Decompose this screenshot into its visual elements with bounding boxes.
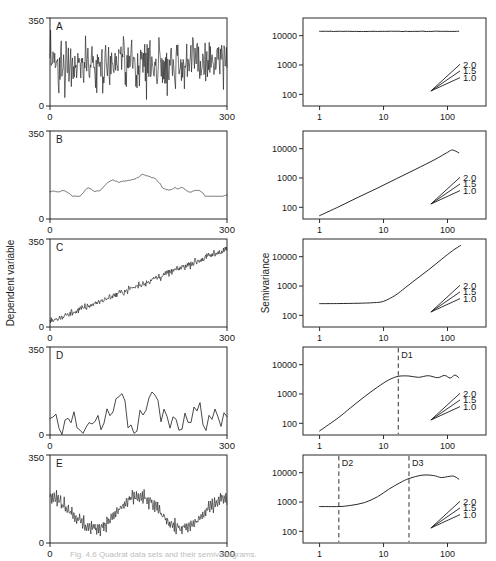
panel-A-vario-ylabel-100: 100 <box>282 90 297 100</box>
panel-D-vario-frame <box>303 347 486 435</box>
panel-C-vario-xlabel-10: 10 <box>379 333 389 343</box>
panel-B-label: B <box>56 134 63 145</box>
panel-A-xlabel-min: 0 <box>47 111 52 122</box>
panel-D-marker-label-D1: D1 <box>401 350 413 360</box>
panel-E-marker-label-D2: D2 <box>342 458 354 468</box>
panel-D-ylabel-min: 0 <box>39 429 44 440</box>
panel-B-vario-xlabel-10: 10 <box>379 225 389 235</box>
panel-D-vario-xlabel-100: 100 <box>440 441 455 451</box>
panel-D-vario-xlabel-1: 1 <box>317 441 322 451</box>
panel-E-label: E <box>56 458 63 469</box>
panel-A-slope-line-1.0 <box>431 78 460 91</box>
panel-B-data-line <box>50 174 227 196</box>
panel-D-xlabel-min: 0 <box>47 440 52 451</box>
panel-C-slope-line-1.5 <box>431 292 460 312</box>
panel-E-slope-line-2.0 <box>431 501 460 528</box>
panel-B-ylabel-max: 350 <box>28 128 44 139</box>
panel-B-vario-frame <box>303 131 486 219</box>
panel-C-series-plot: C35000300 <box>28 236 235 343</box>
panel-E-vario-frame <box>303 455 486 543</box>
left-axis-title: Dependent variable <box>5 239 16 326</box>
panel-D-slope-line-2.0 <box>431 393 460 420</box>
panel-A-semivariogram: 1001000100001101001.01.52.0 <box>272 18 486 122</box>
panel-D-vario-ylabel-100: 100 <box>282 419 297 429</box>
panel-E-vario-ylabel-100: 100 <box>282 527 297 537</box>
panel-C-slope-label-2.0: 2.0 <box>463 280 476 291</box>
panel-A-label: A <box>56 21 63 32</box>
panel-E-vario-xlabel-10: 10 <box>379 549 389 559</box>
panel-C-ylabel-min: 0 <box>39 321 44 332</box>
right-axis-title: Semivariance <box>260 252 271 313</box>
panel-A-vario-xlabel-100: 100 <box>440 112 455 122</box>
panel-E-semivariogram: 100100010000110100D2D31.01.52.0 <box>272 455 486 559</box>
panel-C-xlabel-min: 0 <box>47 332 52 343</box>
panel-E-vario-curve <box>320 475 459 507</box>
figure-container: A350003001001000100001101001.01.52.0B350… <box>0 0 496 561</box>
panel-D-xlabel-max: 300 <box>219 440 235 451</box>
panel-A-slope-line-1.5 <box>431 71 460 91</box>
panel-C-vario-xlabel-100: 100 <box>440 333 455 343</box>
panel-B-ylabel-min: 0 <box>39 213 44 224</box>
panel-C-slope-line-1.0 <box>431 299 460 312</box>
panel-C-data-line <box>50 247 227 323</box>
panel-E-slope-line-1.0 <box>431 515 460 528</box>
panel-D-vario-xlabel-10: 10 <box>379 441 389 451</box>
panel-D-ylabel-max: 350 <box>28 344 44 355</box>
panel-C-slope-fan: 1.01.52.0 <box>431 280 476 312</box>
panel-B-slope-line-1.0 <box>431 191 460 204</box>
panel-D-slope-line-1.5 <box>431 400 460 420</box>
figure-caption: Fig. 4.6 Quadrat data sets and their sem… <box>70 550 257 559</box>
panel-A-vario-ylabel-1000: 1000 <box>277 60 297 70</box>
panel-B-vario-xlabel-1: 1 <box>317 225 322 235</box>
panel-B-vario-ylabel-100: 100 <box>282 203 297 213</box>
panel-C-vario-ylabel-100: 100 <box>282 311 297 321</box>
panel-A-data-line <box>50 30 227 100</box>
panel-E-marker-label-D3: D3 <box>412 458 424 468</box>
panel-D-vario-ylabel-10000: 10000 <box>272 360 297 370</box>
panel-A-slope-label-2.0: 2.0 <box>463 59 476 70</box>
panel-E-ylabel-max: 350 <box>28 452 44 463</box>
panel-B-slope-line-2.0 <box>431 177 460 204</box>
panel-E-data-line <box>50 489 227 536</box>
panel-C-vario-ylabel-1000: 1000 <box>277 281 297 291</box>
panel-A-vario-xlabel-1: 1 <box>317 112 322 122</box>
panel-E-series-plot: E35000300 <box>28 452 235 559</box>
panel-B-slope-label-2.0: 2.0 <box>463 172 476 183</box>
panel-B-slope-line-1.5 <box>431 184 460 204</box>
panel-E-vario-xlabel-100: 100 <box>440 549 455 559</box>
panel-C-ylabel-max: 350 <box>28 236 44 247</box>
panel-D-label: D <box>56 350 63 361</box>
panel-B-xlabel-min: 0 <box>47 224 52 235</box>
panel-C-vario-frame <box>303 239 486 327</box>
panel-B-vario-curve <box>320 150 459 216</box>
panel-D-slope-label-2.0: 2.0 <box>463 388 476 399</box>
panel-E-vario-xlabel-1: 1 <box>317 549 322 559</box>
panel-B-vario-xlabel-100: 100 <box>440 225 455 235</box>
panel-B-xlabel-max: 300 <box>219 224 235 235</box>
panel-C-label: C <box>56 242 63 253</box>
panel-A-ylabel-max: 350 <box>28 15 44 26</box>
panel-A-vario-xlabel-10: 10 <box>379 112 389 122</box>
panel-A-series-plot: A35000300 <box>28 15 235 122</box>
panel-A-xlabel-max: 300 <box>219 111 235 122</box>
panel-B-series-plot: B35000300 <box>28 128 235 235</box>
panel-E-vario-ylabel-10000: 10000 <box>272 468 297 478</box>
panel-E-xlabel-min: 0 <box>47 548 52 559</box>
panel-D-slope-fan: 1.01.52.0 <box>431 388 476 420</box>
panel-D-series-plot: D35000300 <box>28 344 235 451</box>
panel-D-slope-line-1.0 <box>431 407 460 420</box>
panel-A-slope-line-2.0 <box>431 64 460 91</box>
panel-A-slope-fan: 1.01.52.0 <box>431 59 476 91</box>
panel-E-slope-fan: 1.01.52.0 <box>431 496 476 528</box>
panel-B-vario-ylabel-10000: 10000 <box>272 144 297 154</box>
panel-C-vario-xlabel-1: 1 <box>317 333 322 343</box>
panel-E-slope-label-2.0: 2.0 <box>463 496 476 507</box>
panel-B-semivariogram: 1001000100001101001.01.52.0 <box>272 131 486 235</box>
panel-D-data-line <box>50 392 227 435</box>
panel-B-slope-fan: 1.01.52.0 <box>431 172 476 204</box>
panel-A-vario-ylabel-10000: 10000 <box>272 31 297 41</box>
panel-E-slope-line-1.5 <box>431 508 460 528</box>
panel-B-vario-ylabel-1000: 1000 <box>277 173 297 183</box>
panel-D-semivariogram: 100100010000110100D11.01.52.0 <box>272 347 486 451</box>
figure-svg: A350003001001000100001101001.01.52.0B350… <box>0 0 496 561</box>
